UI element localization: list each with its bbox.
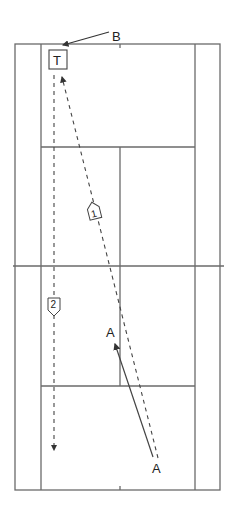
tennis-court-diagram: B T 1 2 A A: [0, 0, 234, 516]
player-a-end-label: A: [106, 325, 115, 340]
shot-2-marker: 2: [48, 298, 60, 316]
doubles-court-outline: [15, 44, 220, 490]
court-lines: [13, 44, 224, 490]
svg-text:2: 2: [51, 299, 57, 310]
player-b-label: B: [112, 29, 121, 44]
shot-1-path: [62, 77, 158, 458]
player-a-start-label: A: [152, 461, 161, 476]
shot-1-marker: 1: [86, 201, 102, 220]
player-b-arrow: [63, 32, 109, 45]
target-label: T: [53, 53, 61, 68]
